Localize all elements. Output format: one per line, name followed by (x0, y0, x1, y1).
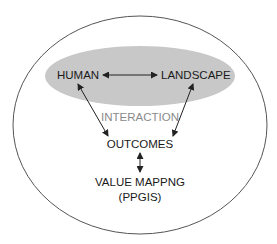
landscape-label: LANDSCAPE (161, 69, 231, 81)
diagram-canvas: HUMAN LANDSCAPE INTERACTION OUTCOMES VAL… (0, 0, 277, 244)
outcomes-label: OUTCOMES (107, 138, 174, 150)
ppgis-label: (PPGIS) (119, 191, 162, 203)
interaction-label: INTERACTION (101, 111, 179, 123)
value-mapping-label: VALUE MAPPNG (95, 176, 185, 188)
human-label: HUMAN (57, 69, 99, 81)
